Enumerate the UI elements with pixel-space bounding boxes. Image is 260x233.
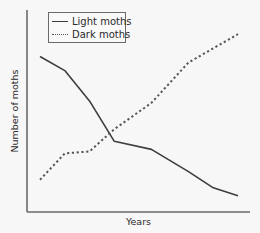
dark-moths-line [40,34,238,180]
dotted-line-swatch-icon [52,34,68,35]
legend-item-light-moths: Light moths [52,15,122,28]
y-axis-label: Number of moths [9,69,20,152]
light-moths-line [40,57,238,196]
legend-item-dark-moths: Dark moths [52,28,122,41]
legend: Light moths Dark moths [48,12,126,43]
legend-label: Dark moths [72,29,130,40]
solid-line-swatch-icon [52,21,68,22]
legend-label: Light moths [72,16,131,27]
line-chart: Light moths Dark moths Number of moths Y… [0,0,260,233]
x-axis-label: Years [27,216,250,227]
